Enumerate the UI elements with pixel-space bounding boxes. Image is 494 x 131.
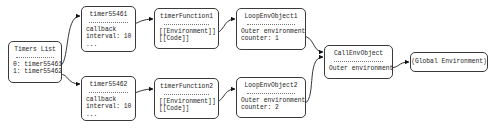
divider: [16, 57, 53, 58]
node-call-env-object: CallEnvObject Outer environment: [324, 45, 393, 79]
node-field: Outer environment: [325, 65, 392, 73]
node-field: interval: 10: [82, 33, 135, 41]
divider: [164, 94, 209, 95]
divider: [247, 93, 296, 94]
divider: [334, 61, 382, 62]
divider: [164, 24, 209, 25]
node-global-environment: (Global Environment): [410, 52, 488, 72]
node-title: LoopEnvObject1: [237, 9, 305, 21]
node-title: timerFunction2: [155, 79, 218, 91]
node-field: [[Code]]: [155, 35, 218, 43]
node-title: timerFunction1: [155, 9, 218, 21]
node-title: LoopEnvObject2: [237, 78, 305, 90]
node-timers-list: Timers List 0: timer55461 1: timer55462: [8, 41, 62, 83]
node-field: ...: [82, 41, 135, 49]
node-timer55461: timer55461 callback interval: 10 ...: [81, 6, 136, 52]
node-field: [[Environment]]: [155, 28, 218, 36]
node-title: timer55461: [82, 7, 135, 19]
node-title: (Global Environment): [411, 58, 487, 65]
node-title: timer55462: [82, 77, 135, 89]
node-field: 0: timer55461: [9, 61, 61, 69]
node-field: Outer environment: [237, 97, 305, 105]
node-timer-function-2: timerFunction2 [[Environment]] [[Code]]: [154, 78, 219, 119]
node-field: [[Environment]]: [155, 98, 218, 106]
node-field: ...: [82, 111, 135, 119]
divider: [89, 92, 127, 93]
node-field: [[Code]]: [155, 105, 218, 113]
divider: [89, 22, 127, 23]
node-field: interval: 10: [82, 103, 135, 111]
node-title: Timers List: [9, 42, 61, 54]
node-loop-env-object-1: LoopEnvObject1 Outer environment counter…: [236, 8, 306, 50]
node-field: 1: timer55462: [9, 68, 61, 76]
node-field: callback: [82, 26, 135, 34]
node-timer55462: timer55462 callback interval: 10 ...: [81, 76, 136, 121]
node-field: callback: [82, 96, 135, 104]
node-field: counter: 2: [237, 104, 305, 112]
node-title: CallEnvObject: [325, 46, 392, 58]
node-timer-function-1: timerFunction1 [[Environment]] [[Code]]: [154, 8, 219, 49]
node-field: Outer environment: [237, 28, 305, 36]
node-loop-env-object-2: LoopEnvObject2 Outer environment counter…: [236, 77, 306, 118]
divider: [247, 24, 296, 25]
node-field: counter: 1: [237, 35, 305, 43]
